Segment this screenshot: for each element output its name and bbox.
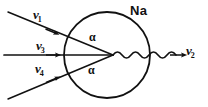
- beam-label-nu2: ν2: [186, 44, 195, 60]
- beam-subscript-nu1: 1: [38, 15, 42, 24]
- beam-line-nu1: [8, 12, 113, 55]
- beam-arrowhead-nu4: [46, 78, 58, 83]
- beam-label-nu1: ν1: [33, 8, 42, 24]
- angle-label-alpha-top: α: [89, 31, 96, 43]
- beam-wave-nu2: [113, 52, 176, 58]
- angle-label-alpha-bottom: α: [88, 64, 95, 76]
- atom-label: Na: [130, 4, 147, 17]
- beam-subscript-nu2: 2: [191, 51, 195, 60]
- beam-label-nu4: ν4: [35, 62, 44, 78]
- beam-subscript-nu4: 4: [40, 69, 44, 78]
- diagram-canvas: ν1 ν3 ν4 ν2 α α Na: [0, 0, 208, 107]
- beam-line-nu4: [8, 55, 113, 99]
- diagram-vector-layer: [0, 0, 208, 107]
- beam-label-nu3: ν3: [36, 39, 45, 55]
- beam-subscript-nu3: 3: [41, 46, 45, 55]
